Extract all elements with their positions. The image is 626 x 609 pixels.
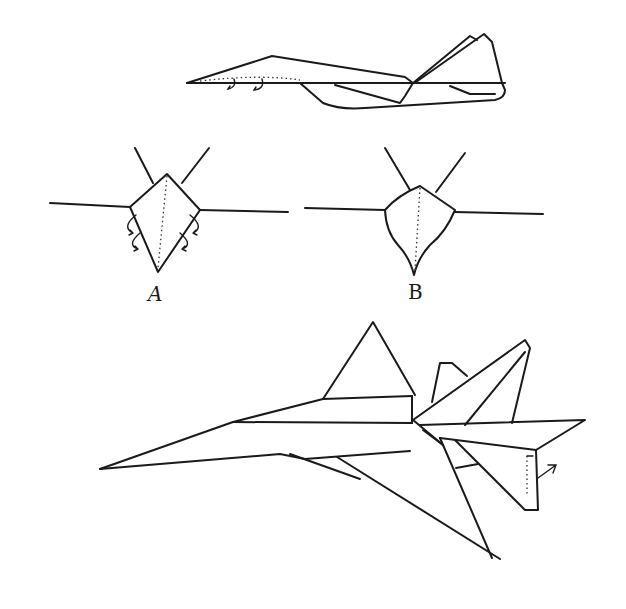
label-a: A [148, 282, 162, 306]
flap-up-arrow-icon [538, 465, 556, 478]
fold-arrow-icon [132, 233, 140, 251]
side-view [187, 34, 505, 108]
label-b: B [408, 280, 423, 304]
fold-arrow-icon [254, 79, 263, 90]
finished-view [100, 322, 585, 559]
front-view-a [50, 148, 288, 272]
front-view-b [305, 148, 543, 275]
folding-diagram [0, 0, 626, 609]
